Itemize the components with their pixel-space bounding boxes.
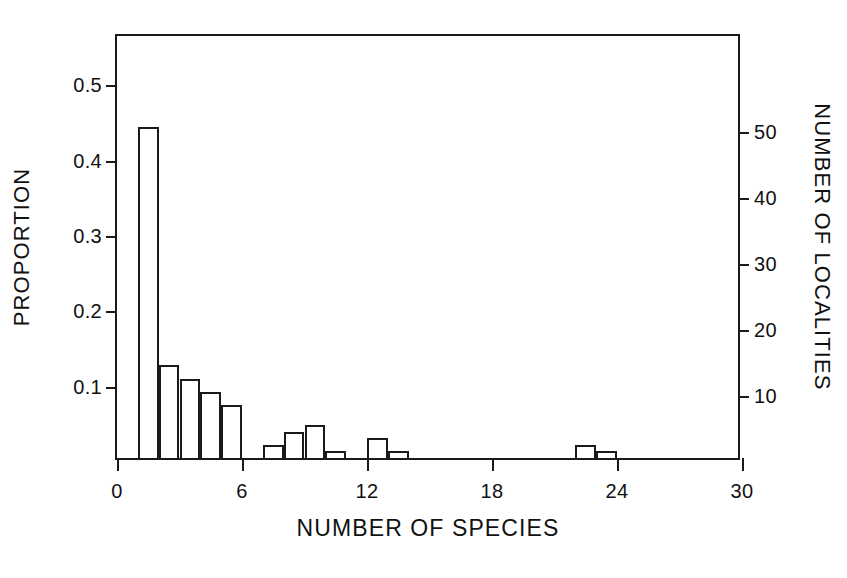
y-ticklabel-right: 20 — [754, 318, 777, 341]
histogram-bar — [263, 445, 284, 458]
x-tick — [617, 458, 619, 471]
x-ticklabel: 0 — [111, 480, 122, 503]
x-ticklabel: 18 — [481, 480, 504, 503]
y-tick-left — [106, 85, 117, 87]
y-ticklabel-right: 50 — [754, 120, 777, 143]
histogram-bar — [596, 451, 617, 458]
y-axis-title-right: NUMBER OF LOCALITIES — [809, 103, 835, 390]
histogram-bar — [180, 379, 201, 458]
y-ticklabel-left: 0.5 — [73, 74, 102, 97]
x-tick — [117, 458, 119, 471]
y-tick-left — [106, 161, 117, 163]
x-tick — [742, 458, 744, 471]
histogram-bar — [138, 127, 159, 458]
histogram-bar — [575, 445, 596, 458]
y-axis-title-left: PROPORTION — [9, 168, 35, 327]
x-tick — [492, 458, 494, 471]
y-tick-right — [738, 264, 749, 266]
y-tick-right — [738, 330, 749, 332]
y-ticklabel-left: 0.3 — [73, 224, 102, 247]
x-ticklabel: 12 — [356, 480, 379, 503]
histogram-bar — [221, 405, 242, 458]
histogram-bar — [305, 425, 326, 458]
y-tick-right — [738, 132, 749, 134]
y-tick-left — [106, 311, 117, 313]
plot-area: 0.10.20.30.40.5 1020304050 0612182430 — [115, 34, 740, 460]
y-tick-right — [738, 198, 749, 200]
x-tick — [367, 458, 369, 471]
histogram-bar — [388, 451, 409, 458]
y-ticklabel-left: 0.4 — [73, 149, 102, 172]
y-tick-left — [106, 387, 117, 389]
x-axis-title: NUMBER OF SPECIES — [297, 515, 560, 542]
x-ticklabel: 30 — [731, 480, 754, 503]
histogram-bar — [200, 392, 221, 458]
histogram-bar — [284, 432, 305, 458]
y-ticklabel-right: 30 — [754, 252, 777, 275]
y-ticklabel-left: 0.2 — [73, 300, 102, 323]
histogram-figure: PROPORTION NUMBER OF LOCALITIES NUMBER O… — [0, 0, 847, 578]
histogram-bar — [367, 438, 388, 458]
histogram-bar — [325, 451, 346, 458]
x-ticklabel: 24 — [606, 480, 629, 503]
bars-layer — [117, 36, 738, 458]
y-tick-left — [106, 236, 117, 238]
x-ticklabel: 6 — [236, 480, 247, 503]
y-tick-right — [738, 396, 749, 398]
y-ticklabel-left: 0.1 — [73, 375, 102, 398]
histogram-bar — [159, 365, 180, 458]
y-ticklabel-right: 40 — [754, 186, 777, 209]
y-ticklabel-right: 10 — [754, 384, 777, 407]
x-tick — [242, 458, 244, 471]
